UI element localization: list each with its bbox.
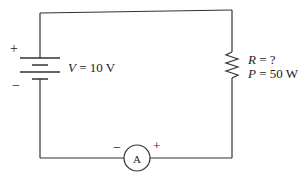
power-label: P = 50 W — [247, 66, 299, 81]
ammeter-minus-sign: − — [113, 140, 121, 155]
top-wire — [40, 10, 232, 13]
resistor-icon — [226, 52, 238, 78]
ammeter-symbol: A — [133, 153, 141, 165]
battery-plus-sign: + — [10, 41, 18, 56]
battery-minus-sign: − — [12, 78, 20, 93]
resistance-label: R = ? — [247, 52, 276, 67]
ammeter-icon: A — [124, 145, 150, 171]
battery-icon — [20, 58, 60, 79]
wires — [40, 10, 238, 158]
circuit-diagram: + − V = 10 V R = ? P = 50 W A − + — [0, 0, 303, 184]
battery-voltage-label: V = 10 V — [68, 60, 116, 75]
ammeter-plus-sign: + — [153, 138, 160, 153]
